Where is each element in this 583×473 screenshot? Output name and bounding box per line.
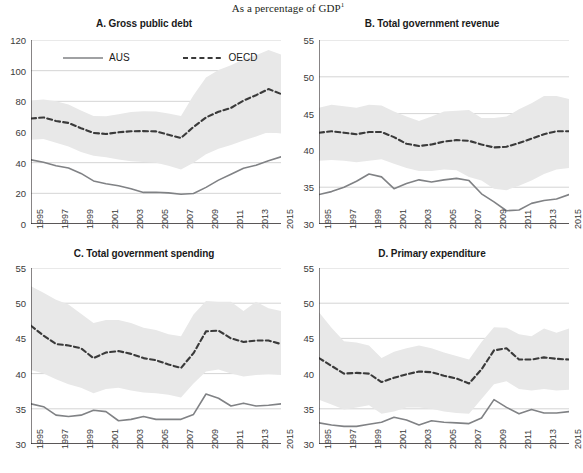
panel-gross-public-debt: A. Gross public debt AUSOECD 02040608010… [0,18,288,250]
panel-d-plot [319,268,569,444]
y-tick-label: 50 [1,298,26,309]
x-tick-label: 2009 [210,209,220,229]
plot-canvas [319,268,569,444]
panel-c-plot [31,268,281,444]
x-tick-label: 2001 [110,429,120,449]
panel-b-plot [319,40,569,224]
figure-supertitle: As a percentage of GDP1 [0,1,576,14]
y-tick-label: 40 [289,368,314,379]
y-tick-label: 35 [1,403,26,414]
x-tick-label: 1997 [60,429,70,449]
x-tick-label: 2011 [523,430,533,449]
x-tick-label: 2003 [135,429,145,449]
x-tick-label: 1999 [85,429,95,449]
legend-swatch-dashed [182,53,224,63]
x-tick-label: 1995 [323,209,333,229]
x-tick-label: 2005 [160,209,170,229]
oecd-range-band [319,312,569,413]
x-tick-label: 2001 [110,209,120,229]
x-tick-label: 2005 [448,429,458,449]
x-tick-label: 1995 [323,429,333,449]
y-tick-label: 45 [1,333,26,344]
y-tick-label: 20 [1,188,26,199]
panel-a-plot [31,40,281,224]
x-tick-label: 2001 [398,209,408,229]
legend-item-aus: AUS [62,52,130,63]
x-tick-label: 2009 [498,429,508,449]
panel-total-government-revenue: B. Total government revenue 303540455055… [288,18,576,250]
x-tick-label: 1997 [348,429,358,449]
y-tick-label: 35 [289,403,314,414]
y-tick-label: 50 [289,298,314,309]
y-tick-label: 40 [1,368,26,379]
x-tick-label: 2013 [548,429,558,449]
y-tick-label: 100 [1,65,26,76]
x-tick-label: 1999 [373,209,383,229]
legend-item-oecd: OECD [182,52,258,63]
panel-a-title: A. Gross public debt [0,18,288,29]
x-tick-label: 1997 [60,209,70,229]
x-tick-label: 1999 [85,209,95,229]
y-tick-label: 50 [289,71,314,82]
x-tick-label: 1999 [373,429,383,449]
supertitle-footnote-marker: 1 [341,1,345,9]
x-tick-label: 2011 [523,210,533,229]
x-tick-label: 2009 [210,429,220,449]
x-tick-label: 2007 [185,209,195,229]
y-tick-label: 40 [1,157,26,168]
y-tick-label: 0 [1,219,26,230]
x-tick-label: 1997 [348,209,358,229]
y-tick-label: 55 [289,263,314,274]
plot-canvas [31,268,281,444]
panel-b-title: B. Total government revenue [288,18,576,29]
y-tick-label: 30 [1,439,26,450]
panel-total-government-spending: C. Total government spending 30354045505… [0,248,288,473]
panel-primary-expenditure: D. Primary expenditure 30354045505519951… [288,248,576,473]
y-tick-label: 55 [289,35,314,46]
y-tick-label: 35 [289,182,314,193]
x-tick-label: 2015 [573,429,583,449]
x-tick-label: 2005 [448,209,458,229]
x-tick-label: 2013 [260,429,270,449]
chart-legend: AUSOECD [62,52,257,63]
x-tick-label: 2013 [260,209,270,229]
x-tick-label: 2007 [185,429,195,449]
series-line-aus [31,394,281,421]
plot-canvas [319,40,569,224]
x-tick-label: 2003 [135,209,145,229]
y-tick-label: 80 [1,96,26,107]
y-tick-label: 120 [1,35,26,46]
x-tick-label: 2001 [398,429,408,449]
x-tick-label: 2003 [423,429,433,449]
x-tick-label: 2005 [160,429,170,449]
panel-c-title: C. Total government spending [0,248,288,259]
x-tick-label: 2013 [548,209,558,229]
y-tick-label: 60 [1,127,26,138]
panel-d-title: D. Primary expenditure [288,248,576,259]
x-tick-label: 1995 [35,429,45,449]
x-tick-label: 2011 [235,430,245,449]
x-tick-label: 1995 [35,209,45,229]
legend-label: AUS [109,52,130,63]
y-tick-label: 45 [289,333,314,344]
y-tick-label: 45 [289,108,314,119]
oecd-range-band [31,50,281,170]
plot-canvas [31,40,281,224]
oecd-range-band [319,96,569,190]
y-tick-label: 30 [289,219,314,230]
legend-swatch-solid [62,53,104,63]
x-tick-label: 2007 [473,429,483,449]
x-tick-label: 2007 [473,209,483,229]
x-tick-label: 2009 [498,209,508,229]
y-tick-label: 55 [1,263,26,274]
y-tick-label: 40 [289,145,314,156]
x-tick-label: 2015 [573,209,583,229]
legend-label: OECD [229,52,258,63]
supertitle-text: As a percentage of GDP [232,2,341,14]
x-tick-label: 2003 [423,209,433,229]
x-tick-label: 2011 [235,210,245,229]
y-tick-label: 30 [289,439,314,450]
